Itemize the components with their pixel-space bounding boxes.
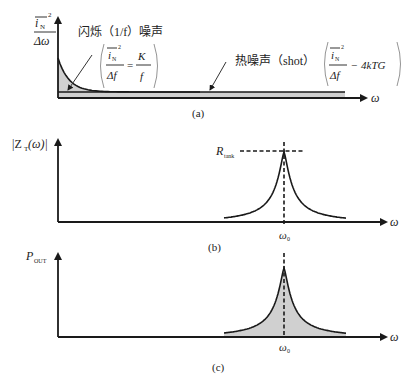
- svg-text:tank: tank: [224, 153, 234, 159]
- svg-text:Δf: Δf: [106, 69, 118, 81]
- svg-text:2: 2: [48, 11, 52, 19]
- flicker-noise-label: 闪烁（1/f）噪声: [78, 25, 163, 39]
- svg-text:(ω)|: (ω)|: [28, 137, 48, 151]
- svg-text:N: N: [40, 23, 45, 31]
- svg-text:R: R: [215, 144, 224, 158]
- svg-text:Δf: Δf: [329, 69, 341, 81]
- panel-label-c: (c): [212, 361, 225, 374]
- svg-text:OUT: OUT: [34, 258, 47, 264]
- thermal-pointer-arrow: [210, 62, 226, 90]
- svg-text:=: =: [127, 59, 133, 71]
- tank-impedance-curve: [224, 152, 346, 218]
- svg-text:P: P: [25, 249, 34, 263]
- y-axis-label-a: i N 2 Δω: [33, 11, 56, 48]
- svg-text:2: 2: [341, 44, 344, 50]
- center-frequency-label-c: ω 0: [279, 341, 290, 354]
- noise-spectrum-diagram: ω i N 2 Δω 闪烁（1/f）噪声 i N 2 Δf = K f: [0, 0, 405, 384]
- svg-text:Δω: Δω: [33, 34, 50, 48]
- svg-text:i: i: [331, 49, 334, 61]
- r-tank-label: R tank: [215, 144, 234, 159]
- x-axis-label-b: ω: [390, 215, 398, 229]
- svg-text:0: 0: [287, 236, 290, 242]
- y-axis-label-b: |Z T (ω)|: [12, 137, 48, 153]
- svg-text:ω: ω: [279, 229, 287, 241]
- center-frequency-label-b: ω 0: [279, 229, 290, 242]
- svg-text:4kTG: 4kTG: [361, 59, 386, 71]
- svg-text:N: N: [112, 56, 117, 62]
- flicker-formula: i N 2 Δf = K f: [101, 44, 158, 88]
- svg-text:|Z: |Z: [12, 137, 22, 151]
- svg-text:2: 2: [118, 44, 121, 50]
- flicker-pointer-arrow: [68, 55, 92, 90]
- panel-b: ω |Z T (ω)| R tank ω 0 (b): [12, 137, 398, 254]
- panel-label-b: (b): [208, 241, 221, 254]
- panel-label-a: (a): [192, 107, 205, 120]
- svg-text:f: f: [140, 70, 145, 82]
- svg-text:0: 0: [287, 348, 290, 354]
- svg-text:i: i: [35, 16, 38, 30]
- thermal-formula: i N 2 Δf − 4kTG: [325, 42, 401, 86]
- svg-text:ω: ω: [279, 341, 287, 353]
- svg-text:K: K: [137, 50, 146, 62]
- svg-text:N: N: [335, 56, 340, 62]
- panel-a: ω i N 2 Δω 闪烁（1/f）噪声 i N 2 Δf = K f: [33, 11, 401, 120]
- thermal-noise-label: 热噪声（shot）: [235, 54, 315, 68]
- panel-c: ω P OUT ω 0 (c): [25, 249, 398, 374]
- svg-text:−: −: [351, 59, 357, 71]
- x-axis-label-a: ω: [371, 91, 379, 105]
- x-axis-label-c: ω: [390, 330, 398, 344]
- y-axis-label-c: P OUT: [25, 249, 47, 264]
- output-power-fill: [224, 268, 346, 337]
- svg-text:i: i: [108, 49, 111, 61]
